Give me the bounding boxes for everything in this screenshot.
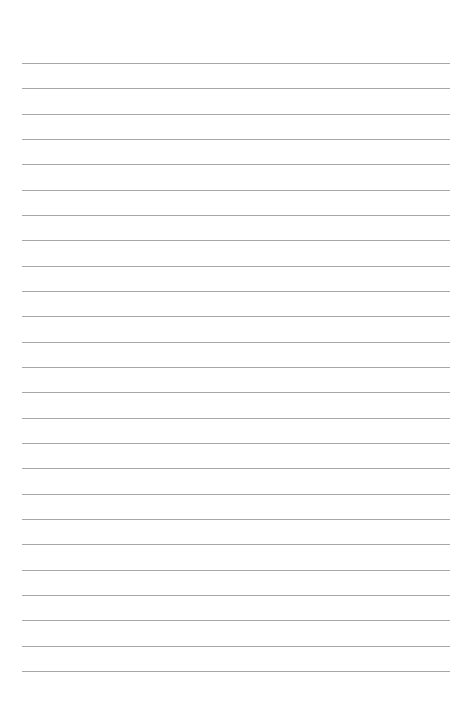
ruled-line [22, 342, 450, 343]
ruled-line [22, 88, 450, 89]
ruled-line [22, 291, 450, 292]
ruled-line [22, 190, 450, 191]
ruled-line [22, 544, 450, 545]
lined-paper-page [0, 0, 473, 705]
ruled-line [22, 671, 450, 672]
ruled-line [22, 215, 450, 216]
ruled-line [22, 139, 450, 140]
ruled-line [22, 266, 450, 267]
ruled-line [22, 468, 450, 469]
ruled-line [22, 570, 450, 571]
ruled-line [22, 367, 450, 368]
ruled-line [22, 620, 450, 621]
ruled-line [22, 519, 450, 520]
ruled-line [22, 418, 450, 419]
ruled-line [22, 316, 450, 317]
ruled-line [22, 63, 450, 64]
ruled-line [22, 646, 450, 647]
ruled-line [22, 164, 450, 165]
ruled-line [22, 114, 450, 115]
ruled-line [22, 494, 450, 495]
ruled-line [22, 392, 450, 393]
ruled-line [22, 443, 450, 444]
ruled-line [22, 595, 450, 596]
ruled-line [22, 240, 450, 241]
